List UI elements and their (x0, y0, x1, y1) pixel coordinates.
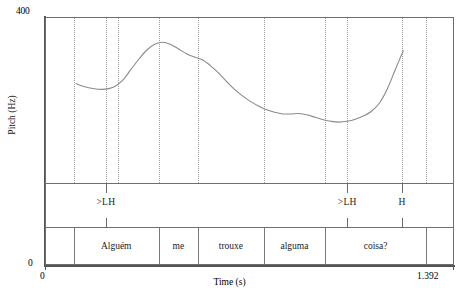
pitch-contour-figure: 400 0 0 1.392 Time (s) Pitch (Hz) >LH>LH… (0, 0, 459, 296)
word-tier: Alguémmetrouxealgumacoisa? (45, 228, 454, 265)
word-cell-1: Alguém (74, 228, 159, 264)
word-cell-empty-6 (426, 228, 453, 264)
x-axis-tick-end (453, 265, 454, 270)
word-cell-empty-0 (46, 228, 74, 264)
x-axis-spine (44, 265, 455, 267)
word-cell-4: alguma (264, 228, 325, 264)
x-axis-tick-start (45, 265, 46, 270)
tone-mark-stem-top (106, 184, 107, 193)
word-boundary-4 (264, 228, 265, 264)
word-boundary-2 (159, 228, 160, 264)
pitch-panel (45, 17, 454, 183)
tone-tier: >LH>LHH (45, 183, 454, 228)
word-cell-5: coisa? (325, 228, 426, 264)
word-boundary-6 (426, 228, 427, 264)
word-boundary-3 (198, 228, 199, 264)
tone-mark-stem-bottom (347, 218, 348, 227)
tone-mark-stem-top (402, 184, 403, 193)
tone-mark-stem-top (347, 184, 348, 193)
x-axis-title: Time (s) (0, 277, 459, 287)
y-axis-min-tick-label: 0 (28, 258, 33, 268)
y-axis-title: Pitch (Hz) (7, 75, 17, 155)
tone-mark-stem-bottom (402, 218, 403, 227)
word-cell-3: trouxe (198, 228, 264, 264)
word-cell-2: me (159, 228, 199, 264)
tone-mark-stem-bottom (106, 218, 107, 227)
pitch-contour-curve (46, 18, 453, 182)
tone-label-0: >LH (96, 197, 115, 207)
tone-label-1: >LH (338, 197, 357, 207)
word-boundary-1 (74, 228, 75, 264)
word-boundary-5 (325, 228, 326, 264)
tone-label-2: H (399, 197, 406, 207)
y-axis-max-tick-label: 400 (16, 6, 30, 16)
